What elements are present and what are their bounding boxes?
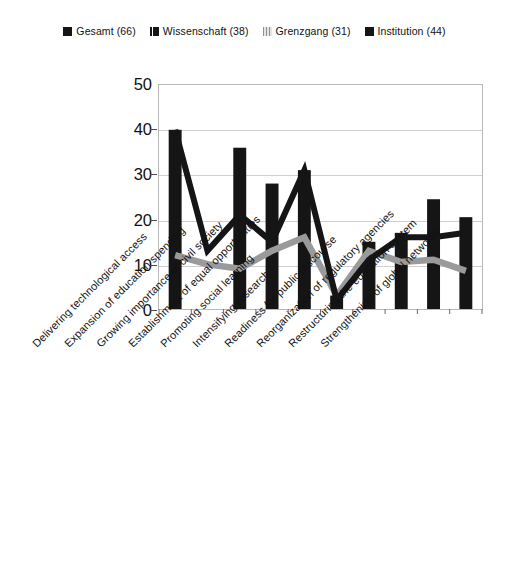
x-label-9: Strengthening of global networks bbox=[318, 225, 442, 349]
x-label-7: Reorganization of regulatory agencies bbox=[254, 207, 396, 349]
x-label-0: Delivering technological access bbox=[30, 230, 149, 349]
x-axis-labels: Delivering technological access Expansio… bbox=[0, 0, 509, 566]
x-label-8: Restructuring the education system bbox=[286, 217, 419, 350]
chart-page: Gesamt (66) Wissenschaft (38) Grenzgang … bbox=[0, 0, 509, 566]
